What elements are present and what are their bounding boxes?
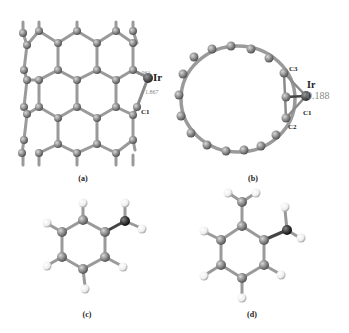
panel-c-atoms (43, 199, 147, 294)
bond-length-ir-c1: 1.867 (145, 89, 159, 95)
nitrogen-atom-d (282, 225, 292, 235)
label-c1-a: C1 (141, 108, 150, 116)
caption-b: (b) (248, 174, 258, 183)
caption-a: (a) (78, 174, 88, 183)
panel-d-atoms (200, 189, 306, 303)
label-ir-a: Ir (153, 71, 162, 83)
label-c2-b: C2 (288, 123, 297, 131)
label-c1-b: C1 (303, 109, 312, 117)
nitrogen-atom-c (120, 216, 130, 226)
label-ir-b: Ir (307, 79, 316, 90)
label-c3-b: C3 (289, 65, 298, 73)
figure-canvas: Ir C1 1.961 1.867 (a) Ir 0.188 C3 C1 C2 … (0, 0, 349, 333)
caption-c: (c) (83, 310, 92, 319)
bond-length-ir-c: 1.961 (137, 70, 151, 76)
panel-b-atoms (175, 42, 312, 156)
caption-d: (d) (247, 310, 257, 319)
label-distance-b: 0.188 (307, 90, 330, 101)
